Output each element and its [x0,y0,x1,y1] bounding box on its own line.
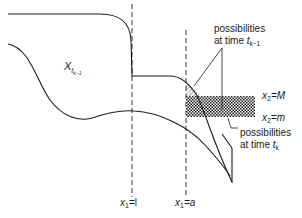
annotation-tk-1-line2: at time tk−1 [214,35,261,47]
constraint-band [186,96,255,117]
label-x2-M: x2=M [261,90,286,102]
annotation-tk-line2: at time tk [240,139,280,151]
label-x1-a: x1=a [174,197,196,209]
label-x2-m: x2=m [261,112,285,124]
upper-boundary-curve [8,14,232,182]
annotation-tk-line1: possibilities [240,127,291,138]
region-label: Xtk−1 [63,60,82,76]
annotation-tk-1-line1: possibilities [214,23,265,34]
state-space-diagram: Xtk−1 x1=l x1=a x2=M x2=m possibilities … [0,0,302,218]
leader-line-tk-1-a [194,48,222,86]
right-boundary-join [222,134,232,148]
label-x1-l: x1=l [119,197,137,209]
leader-line-tk [228,118,238,128]
